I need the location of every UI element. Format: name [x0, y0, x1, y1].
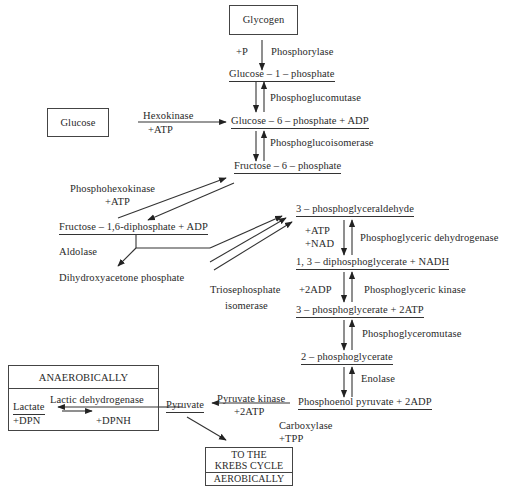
- anaerobic-divider: [9, 388, 158, 389]
- triosephosphate-label: Triosephosphate: [210, 284, 281, 296]
- glycogen-label: Glycogen: [230, 14, 297, 26]
- phosphorylase-label: Phosphorylase: [271, 46, 334, 58]
- glucose-label: Glucose: [48, 117, 108, 129]
- 3-phosphoglycerate: 3 – phosphoglycerate + 2ATP: [296, 304, 424, 318]
- hexokinase-atp-label: +ATP: [148, 124, 173, 136]
- dihydroxyacetone-phosphate: Dihydroxyacetone phosphate: [59, 272, 184, 284]
- pyruvate-kinase-label: Pyruvate kinase: [217, 393, 285, 405]
- krebs-line2: KREBS CYCLE: [206, 460, 292, 471]
- glucose-6-phosphate: Glucose – 6 – phosphate + ADP: [231, 115, 369, 129]
- krebs-line3: AEROBICALLY: [206, 473, 292, 484]
- pyruvate-label: Pyruvate: [166, 399, 204, 413]
- tpp-label: +TPP: [279, 433, 303, 445]
- plus-dpnh-label: +DPNH: [96, 415, 131, 427]
- krebs-line1: TO THE: [206, 449, 292, 460]
- carboxylase-label: Carboxylase: [279, 420, 333, 432]
- phosphoglucomutase-label: Phosphoglucomutase: [270, 92, 361, 104]
- lactic-dehydrogenase-label: Lactic dehydrogenase: [50, 394, 144, 406]
- enolase-label: Enolase: [361, 373, 395, 385]
- plus-p-label: +P: [236, 46, 248, 58]
- fructose-6-phosphate: Fructose – 6 – phosphate: [234, 160, 341, 174]
- glucose-box: Glucose: [47, 108, 109, 137]
- pyruvate-kinase-atp-label: +2ATP: [234, 406, 264, 418]
- 2-phosphoglycerate: 2 – phosphoglycerate: [301, 351, 393, 365]
- phosphohexokinase-label: Phosphohexokinase: [70, 183, 155, 195]
- 1-3-diphosphoglycerate: 1, 3 – diphosphoglycerate + NADH: [296, 256, 449, 270]
- plus-2adp-label: +2ADP: [299, 284, 332, 296]
- aldolase-label: Aldolase: [59, 246, 97, 258]
- hexokinase-label: Hexokinase: [143, 110, 194, 122]
- anaerobic-title: ANAEROBICALLY: [9, 372, 158, 384]
- isomerase-label: isomerase: [225, 300, 268, 312]
- phosphohexokinase-atp-label: +ATP: [105, 196, 130, 208]
- phosphoenol-pyruvate: Phosphoenol pyruvate + 2ADP: [298, 396, 432, 410]
- plus-nad-label: +NAD: [305, 238, 334, 250]
- phosphoglyceric-dehydrogenase-label: Phosphoglyceric dehydrogenase: [360, 232, 499, 244]
- phosphoglucoisomerase-label: Phosphoglucoisomerase: [270, 137, 374, 149]
- plus-dpn-label: +DPN: [13, 415, 40, 427]
- plus-atp-label: +ATP: [305, 225, 330, 237]
- glycogen-box: Glycogen: [229, 5, 298, 35]
- 3-phosphoglyceraldehyde: 3 – phosphoglyceraldehyde: [296, 203, 414, 217]
- krebs-cycle-box: TO THE KREBS CYCLE AEROBICALLY: [205, 447, 293, 486]
- lactate-label: Lactate: [13, 401, 45, 415]
- glucose-1-phosphate: Glucose – 1 – phosphate: [229, 68, 335, 82]
- phosphoglyceromutase-label: Phosphoglyceromutase: [362, 328, 461, 340]
- phosphoglyceric-kinase-label: Phosphoglyceric kinase: [364, 284, 466, 296]
- fructose-1-6-diphosphate: Fructose – 1,6-diphosphate + ADP: [59, 221, 208, 235]
